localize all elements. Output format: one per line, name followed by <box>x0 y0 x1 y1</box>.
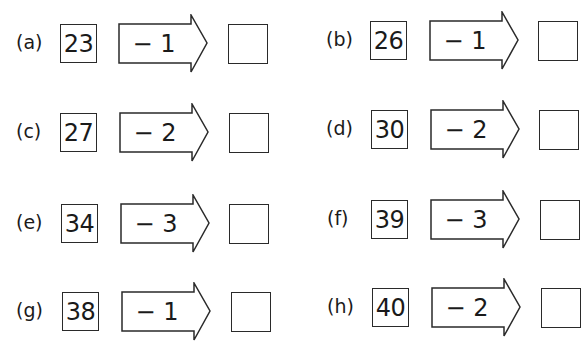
operation-arrow: − 1 <box>118 14 209 74</box>
operation-label: − 3 <box>120 194 198 254</box>
operation-label: − 3 <box>430 190 508 250</box>
operation-arrow: − 3 <box>430 190 521 250</box>
start-number-box: 40 <box>372 288 409 327</box>
answer-box[interactable] <box>229 113 269 153</box>
answer-box[interactable] <box>229 204 269 244</box>
operation-label: − 2 <box>119 103 197 163</box>
problem-label: (e) <box>16 211 43 233</box>
operation-label: − 1 <box>121 282 199 342</box>
problem-b: (b) 26 − 1 <box>291 11 582 71</box>
operation-arrow: − 3 <box>120 194 211 254</box>
operation-arrow: − 2 <box>430 100 521 160</box>
answer-box[interactable] <box>541 288 581 328</box>
start-number-box: 38 <box>62 292 99 331</box>
operation-arrow: − 1 <box>429 11 520 71</box>
start-number-box: 27 <box>60 113 97 152</box>
start-number-box: 34 <box>61 204 98 243</box>
start-number-box: 39 <box>371 200 408 239</box>
answer-box[interactable] <box>540 200 580 240</box>
operation-label: − 2 <box>431 278 509 338</box>
answer-box[interactable] <box>538 21 578 61</box>
problem-c: (c) 27 − 2 <box>0 103 291 163</box>
answer-box[interactable] <box>539 110 579 150</box>
problem-f: (f) 39 − 3 <box>291 190 582 250</box>
problem-e: (e) 34 − 3 <box>0 194 291 254</box>
problem-g: (g) 38 − 1 <box>0 282 291 342</box>
problem-label: (h) <box>327 295 354 317</box>
start-number-box: 23 <box>60 24 97 63</box>
problem-h: (h) 40 − 2 <box>291 278 582 338</box>
problem-label: (c) <box>16 120 41 142</box>
problem-label: (b) <box>326 28 353 50</box>
problem-label: (f) <box>327 207 349 229</box>
problem-label: (a) <box>16 31 42 53</box>
operation-label: − 1 <box>118 14 196 74</box>
start-number-box: 30 <box>371 110 408 149</box>
operation-label: − 1 <box>429 11 507 71</box>
problem-label: (d) <box>326 117 353 139</box>
answer-box[interactable] <box>231 292 271 332</box>
problem-label: (g) <box>16 299 43 321</box>
operation-arrow: − 2 <box>431 278 522 338</box>
operation-label: − 2 <box>430 100 508 160</box>
operation-arrow: − 2 <box>119 103 210 163</box>
operation-arrow: − 1 <box>121 282 212 342</box>
problem-a: (a) 23 − 1 <box>0 14 291 74</box>
start-number-box: 26 <box>370 21 407 60</box>
problem-d: (d) 30 − 2 <box>291 100 582 160</box>
answer-box[interactable] <box>228 24 268 64</box>
